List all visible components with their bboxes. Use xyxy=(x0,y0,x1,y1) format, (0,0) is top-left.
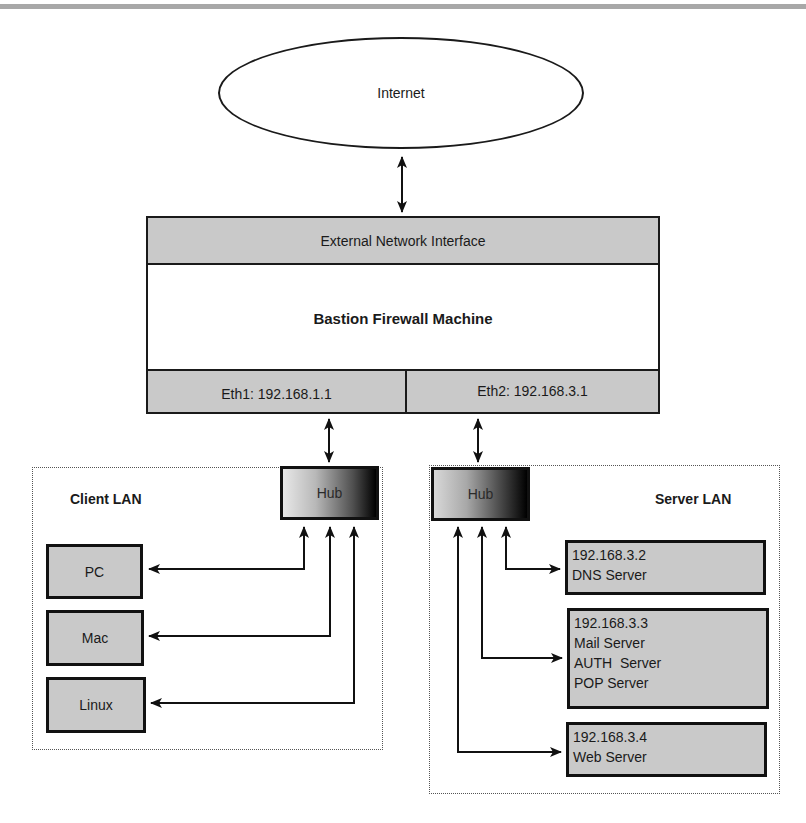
host-linux: Linux xyxy=(46,677,146,733)
mail-server-ip: 192.168.3.3 xyxy=(574,613,766,633)
web-server-box: 192.168.3.4 Web Server xyxy=(566,722,767,777)
server-lan-title: Server LAN xyxy=(655,491,731,507)
auth-server-role: AUTH Server xyxy=(574,653,766,673)
host-linux-label: Linux xyxy=(79,697,112,713)
interface-row: Eth1: 192.168.1.1 Eth2: 192.168.3.1 xyxy=(148,369,658,412)
host-pc-label: PC xyxy=(85,564,104,580)
firewall-title: Bastion Firewall Machine xyxy=(148,265,658,371)
top-rule-divider xyxy=(0,4,806,9)
mail-server-box: 192.168.3.3 Mail Server AUTH Server POP … xyxy=(567,608,769,709)
host-mac-label: Mac xyxy=(82,630,108,646)
eth1-label: Eth1: 192.168.1.1 xyxy=(221,386,332,402)
internet-label: Internet xyxy=(377,85,424,101)
dns-server-ip: 192.168.3.2 xyxy=(572,545,763,565)
mail-server-role: Mail Server xyxy=(574,633,766,653)
eth2-interface: Eth2: 192.168.3.1 xyxy=(407,371,658,412)
eth2-label: Eth2: 192.168.3.1 xyxy=(477,383,588,399)
web-server-role: Web Server xyxy=(573,747,764,767)
client-lan-title: Client LAN xyxy=(70,491,142,507)
dns-server-box: 192.168.3.2 DNS Server xyxy=(565,540,766,595)
firewall-title-label: Bastion Firewall Machine xyxy=(313,310,492,327)
external-interface-label: External Network Interface xyxy=(321,233,486,249)
client-hub-label: Hub xyxy=(317,485,343,501)
pop-server-role: POP Server xyxy=(574,673,766,693)
server-hub-label: Hub xyxy=(468,486,494,502)
web-server-ip: 192.168.3.4 xyxy=(573,727,764,747)
host-mac: Mac xyxy=(46,610,144,666)
bastion-firewall-machine: External Network Interface Bastion Firew… xyxy=(146,216,660,414)
client-hub: Hub xyxy=(280,466,379,520)
internet-node: Internet xyxy=(218,37,584,149)
dns-server-role: DNS Server xyxy=(572,565,763,585)
host-pc: PC xyxy=(46,544,143,599)
server-hub: Hub xyxy=(431,467,530,521)
external-network-interface: External Network Interface xyxy=(148,218,658,265)
eth1-interface: Eth1: 192.168.1.1 xyxy=(148,371,407,412)
